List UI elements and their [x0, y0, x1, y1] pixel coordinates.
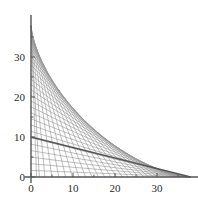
x-tick-label-30: 30	[152, 182, 164, 194]
x-tick-label-0: 0	[28, 182, 34, 194]
y-tick-label-30: 30	[14, 51, 26, 63]
x-tick-label-20: 20	[110, 182, 122, 194]
y-tick-label-10: 10	[14, 131, 26, 143]
y-tick-label-0: 0	[20, 171, 26, 183]
x-tick-label-10: 10	[68, 182, 80, 194]
y-tick-label-20: 20	[14, 91, 26, 103]
envelope-line-family-chart: 01020300102030	[0, 0, 198, 213]
chart-plot-area: 01020300102030	[0, 0, 198, 213]
